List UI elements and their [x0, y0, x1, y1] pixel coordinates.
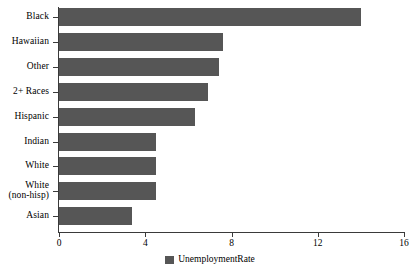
legend-items: UnemploymentRate: [165, 254, 255, 265]
category-tick: [53, 142, 58, 143]
category-label: Other: [27, 61, 49, 71]
x-axis-tick-label: 0: [47, 238, 71, 249]
category-label: Hawaiian: [12, 36, 49, 46]
category-tick: [53, 17, 58, 18]
x-axis-tick-label: 8: [220, 238, 244, 249]
category-tick: [53, 216, 58, 217]
category-tick: [53, 166, 58, 167]
category-tick: [53, 67, 58, 68]
category-tick: [53, 191, 58, 192]
legend-swatch-icon: [165, 256, 174, 264]
category-label: White: [25, 160, 49, 170]
x-axis-tick: [59, 233, 60, 237]
legend-label: UnemploymentRate: [178, 254, 255, 265]
bar-chart: BlackHawaiianOther2+ RacesHispanicIndian…: [0, 0, 420, 275]
bar: [59, 207, 132, 225]
category-label: 2+ Races: [13, 86, 49, 96]
x-axis-tick-label: 4: [133, 238, 157, 249]
category-label: Black: [26, 11, 49, 21]
x-axis-tick: [145, 233, 146, 237]
chart-legend: UnemploymentRate: [0, 254, 420, 265]
category-tick: [53, 42, 58, 43]
bar: [59, 8, 361, 26]
bar: [59, 58, 219, 76]
category-label: Indian: [24, 136, 49, 146]
legend-item[interactable]: UnemploymentRate: [165, 254, 255, 265]
bar: [59, 108, 195, 126]
y-axis-line: [58, 7, 59, 233]
plot-area: [59, 8, 404, 232]
x-axis-tick: [232, 233, 233, 237]
category-label: White (non-hisp): [8, 180, 49, 200]
bar: [59, 33, 223, 51]
bar: [59, 83, 208, 101]
category-label: Asian: [26, 210, 49, 220]
bar: [59, 157, 156, 175]
x-axis-tick-label: 12: [306, 238, 330, 249]
bar: [59, 133, 156, 151]
category-tick: [53, 92, 58, 93]
x-axis-tick-label: 16: [392, 238, 416, 249]
x-axis-tick: [404, 233, 405, 237]
x-axis-tick: [318, 233, 319, 237]
bar: [59, 182, 156, 200]
category-label: Hispanic: [14, 111, 49, 121]
category-tick: [53, 117, 58, 118]
